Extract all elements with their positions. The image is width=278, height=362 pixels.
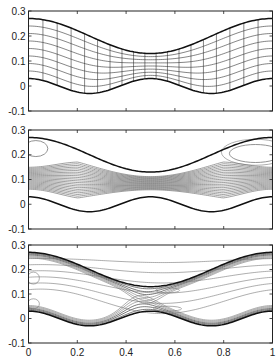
y-tick-label: 0.3 <box>12 125 26 136</box>
figure: 0.30.20.10-0.10.30.20.10-0.10.30.20.10-0… <box>0 0 278 362</box>
x-tick-label: 0 <box>26 347 32 358</box>
panel-2: 0.30.20.10-0.1 <box>8 125 278 235</box>
panel-3: 0.30.20.10-0.100.20.40.60.81 <box>8 240 275 359</box>
x-tick-label: 1 <box>270 347 276 358</box>
upper-wall <box>29 19 273 54</box>
panel-1: 0.30.20.10-0.1 <box>8 6 272 117</box>
y-tick-label: 0 <box>20 313 26 324</box>
y-tick-label: 0.1 <box>12 289 26 300</box>
vorticity-contours <box>27 253 272 325</box>
y-tick-label: 0.3 <box>12 6 26 17</box>
lower-wall <box>29 311 273 326</box>
y-tick-label: 0.2 <box>12 264 26 275</box>
y-tick-label: -0.1 <box>8 338 26 349</box>
upper-wall <box>29 252 273 286</box>
y-tick-label: -0.1 <box>8 224 26 235</box>
mesh-grid <box>29 20 273 94</box>
y-tick-label: 0.1 <box>12 56 26 67</box>
y-tick-label: 0.1 <box>12 174 26 185</box>
x-tick-label: 0.8 <box>217 347 231 358</box>
y-tick-label: 0.2 <box>12 149 26 160</box>
x-tick-label: 0.6 <box>168 347 182 358</box>
x-tick-label: 0.4 <box>119 347 133 358</box>
recirculation-loop-left <box>24 141 48 157</box>
y-tick-label: 0 <box>20 81 26 92</box>
y-tick-label: 0.3 <box>12 240 26 251</box>
y-tick-label: 0.2 <box>12 31 26 42</box>
lower-wall <box>29 197 273 212</box>
y-tick-label: -0.1 <box>8 106 26 117</box>
upper-wall <box>29 137 273 172</box>
x-tick-label: 0.2 <box>70 347 84 358</box>
streamline-contours <box>24 139 278 198</box>
recirculation-loop-right <box>229 145 278 163</box>
y-tick-label: 0 <box>20 199 26 210</box>
